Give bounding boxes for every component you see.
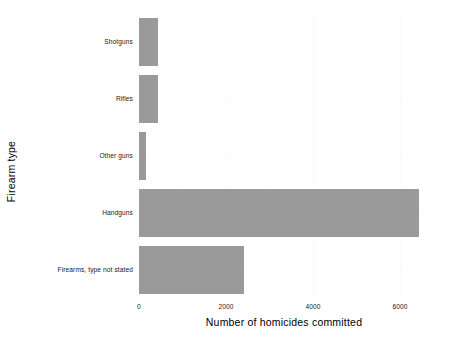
plot-area <box>139 14 429 297</box>
gridline-y-shotguns <box>139 42 429 43</box>
bar-rifles <box>139 75 158 123</box>
bar-firearms-type-not-stated <box>139 246 244 294</box>
x-tick-label-0: 0 <box>137 303 141 310</box>
bar-other-guns <box>139 132 146 180</box>
y-tick-label-firearms-type-not-stated: Firearms, type not stated <box>58 266 133 273</box>
bar-handguns <box>139 189 419 237</box>
y-axis-title: Firearm type <box>0 0 22 343</box>
y-tick-label-other-guns: Other guns <box>99 152 133 159</box>
gridline-y-other-guns <box>139 156 429 157</box>
x-tick-label-4000: 4000 <box>305 303 320 310</box>
x-tick-label-2000: 2000 <box>218 303 233 310</box>
x-axis-title: Number of homicides committed <box>139 316 429 328</box>
y-tick-label-shotguns: Shotguns <box>104 38 133 45</box>
y-tick-label-handguns: Handguns <box>102 209 133 216</box>
y-tick-label-rifles: Rifles <box>116 95 133 102</box>
gridline-y-rifles <box>139 99 429 100</box>
bar-shotguns <box>139 18 158 66</box>
x-tick-label-6000: 6000 <box>392 303 407 310</box>
bar-chart: Firearm type Shotguns Rifles Other guns … <box>0 0 461 343</box>
